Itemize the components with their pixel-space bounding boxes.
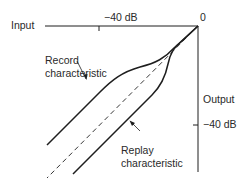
record-characteristic-curve	[47, 26, 198, 145]
replay-label-line1: Replay	[121, 144, 154, 156]
record-label-line1: Record	[45, 54, 79, 66]
output-tick-label: −40 dB	[203, 118, 237, 130]
origin-label: 0	[200, 11, 206, 23]
output-axis-label: Output	[203, 93, 235, 105]
replay-label-line2: characteristic	[121, 157, 183, 169]
input-tick-label: −40 dB	[104, 11, 138, 23]
noise-reduction-characteristic-diagram: Input −40 dB 0 Output −40 dB Record char…	[0, 0, 249, 181]
input-axis-label: Input	[11, 19, 34, 31]
record-label-line2: characteristic	[45, 67, 107, 79]
